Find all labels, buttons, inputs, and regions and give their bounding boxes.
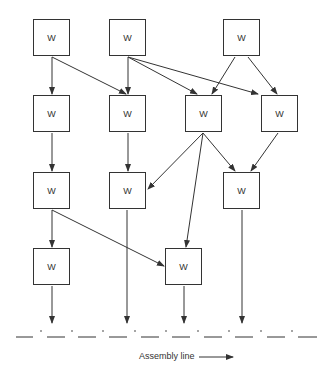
workstation-node: W [33,95,70,132]
edge-arrow [248,57,277,94]
workstation-node: W [33,19,70,56]
workstation-node: W [33,248,70,285]
edge-arrow [186,133,203,247]
workstation-node: W [165,248,202,285]
edge-arrow [251,133,278,171]
edge-arrow [203,133,235,171]
edge-arrow [128,57,197,94]
workstation-node: W [109,19,146,56]
workstation-node: W [185,95,222,132]
edge-arrow [148,133,203,189]
edge-arrow [128,57,258,94]
edge-arrow [52,57,126,94]
workstation-node: W [261,95,298,132]
workstation-node: W [33,172,70,209]
workstation-node: W [223,19,260,56]
workstation-node: W [109,172,146,209]
workstation-node: W [109,95,146,132]
edge-arrow [212,57,235,94]
workstation-node: W [223,172,260,209]
assembly-line-label: Assembly line [139,351,195,361]
